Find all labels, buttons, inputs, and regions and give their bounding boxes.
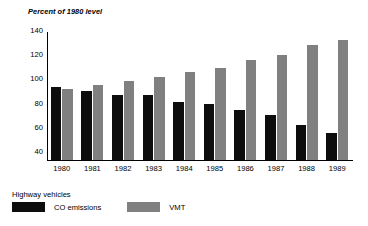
x-axis-tick-label: 1982 bbox=[115, 164, 132, 173]
y-axis-tick-label: 60 bbox=[35, 122, 43, 131]
legend-swatch-vmt bbox=[127, 202, 160, 212]
bar-group bbox=[296, 33, 318, 160]
bar-group bbox=[265, 33, 287, 160]
bar-vmt-1983 bbox=[154, 77, 165, 160]
y-axis-tick-label: 100 bbox=[30, 74, 43, 83]
bar-co-emissions-1981 bbox=[81, 91, 92, 160]
bar-vmt-1988 bbox=[307, 45, 318, 160]
plot-area: 406080100120140 bbox=[47, 33, 353, 160]
bar-co-emissions-1989 bbox=[326, 133, 337, 160]
legend-label: CO emissions bbox=[54, 203, 101, 212]
x-axis-tick-label: 1987 bbox=[268, 164, 285, 173]
bar-vmt-1986 bbox=[246, 60, 257, 160]
bar-vmt-1981 bbox=[93, 85, 104, 160]
bar-co-emissions-1980 bbox=[51, 87, 62, 160]
y-axis-tick-label: 120 bbox=[30, 50, 43, 59]
bar-co-emissions-1982 bbox=[112, 95, 123, 160]
y-axis-tick-label: 140 bbox=[30, 26, 43, 35]
x-axis-tick-label: 1981 bbox=[84, 164, 101, 173]
bar-vmt-1984 bbox=[185, 72, 196, 160]
bar-co-emissions-1988 bbox=[296, 125, 307, 160]
chart-legend: Highway vehicles CO emissionsVMT bbox=[12, 190, 262, 212]
x-axis-tick-label: 1985 bbox=[206, 164, 223, 173]
bar-co-emissions-1984 bbox=[173, 102, 184, 160]
x-axis-tick-label: 1989 bbox=[329, 164, 346, 173]
bar-group bbox=[112, 33, 134, 160]
bar-vmt-1982 bbox=[124, 81, 135, 160]
chart-figure: Percent of 1980 level 406080100120140 19… bbox=[0, 0, 368, 226]
chart-axis-title: Percent of 1980 level bbox=[28, 7, 102, 16]
bar-co-emissions-1986 bbox=[234, 110, 245, 160]
legend-entry: CO emissions bbox=[12, 202, 101, 212]
y-axis-tick-label: 40 bbox=[35, 147, 43, 156]
x-axis-tick-label: 1984 bbox=[176, 164, 193, 173]
legend-entry: VMT bbox=[127, 202, 185, 212]
x-axis-tick-label: 1986 bbox=[237, 164, 254, 173]
bar-group bbox=[326, 33, 348, 160]
bar-group bbox=[143, 33, 165, 160]
bar-co-emissions-1987 bbox=[265, 115, 276, 160]
y-axis-tick-label: 80 bbox=[35, 98, 43, 107]
bar-group bbox=[173, 33, 195, 160]
x-axis-tick-label: 1980 bbox=[53, 164, 70, 173]
legend-swatch-co bbox=[12, 202, 45, 212]
bar-vmt-1987 bbox=[277, 55, 288, 160]
bar-vmt-1985 bbox=[215, 68, 226, 160]
bar-co-emissions-1983 bbox=[143, 95, 154, 160]
bar-vmt-1989 bbox=[338, 40, 349, 160]
legend-label: VMT bbox=[169, 203, 185, 212]
bar-group bbox=[234, 33, 256, 160]
x-axis-tick-label: 1988 bbox=[298, 164, 315, 173]
bar-co-emissions-1985 bbox=[204, 104, 215, 160]
bar-group bbox=[51, 33, 73, 160]
legend-entries: CO emissionsVMT bbox=[12, 202, 262, 212]
bar-group bbox=[204, 33, 226, 160]
x-axis-line bbox=[47, 160, 353, 161]
bar-vmt-1980 bbox=[62, 89, 73, 160]
bar-group bbox=[81, 33, 103, 160]
x-axis-tick-label: 1983 bbox=[145, 164, 162, 173]
legend-title: Highway vehicles bbox=[12, 190, 262, 199]
